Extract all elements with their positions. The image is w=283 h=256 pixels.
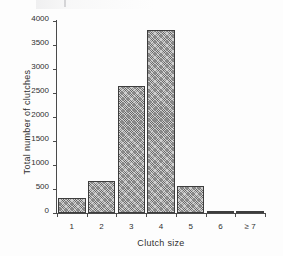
y-tick-label: 2000 [31, 111, 49, 119]
y-tick-mark [53, 189, 57, 190]
plot-area: 05001000150020002500300035004000 123456≥… [57, 21, 265, 213]
x-tick-label: 5 [188, 222, 192, 231]
y-tick-label: 3500 [31, 39, 49, 47]
y-tick-mark [53, 69, 57, 70]
y-axis-title: Total number of clutches [22, 47, 32, 197]
bar [207, 211, 235, 213]
y-tick-label: 1000 [31, 159, 49, 167]
y-tick-label: 500 [36, 183, 49, 191]
chart-figure: 05001000150020002500300035004000 123456≥… [0, 0, 283, 256]
x-tick-mark [235, 213, 236, 217]
bar [88, 181, 116, 213]
bar [58, 198, 86, 213]
x-tick-mark [57, 213, 58, 217]
y-tick-label: 2500 [31, 87, 49, 95]
x-tick-label: 2 [99, 222, 103, 231]
x-tick-label: 6 [218, 222, 222, 231]
bar [236, 211, 264, 213]
x-tick-mark [146, 213, 147, 217]
y-tick-mark [53, 21, 57, 22]
x-tick-mark [87, 213, 88, 217]
y-tick-mark [53, 93, 57, 94]
y-tick-mark [53, 141, 57, 142]
y-tick-mark [53, 165, 57, 166]
y-tick-mark [53, 117, 57, 118]
x-tick-label: 1 [70, 222, 74, 231]
x-tick-mark [116, 213, 117, 217]
x-tick-label: 4 [159, 222, 163, 231]
x-tick-mark [176, 213, 177, 217]
y-tick-mark [53, 45, 57, 46]
scan-artifact-mark [64, 0, 66, 7]
x-tick-label: 3 [129, 222, 133, 231]
x-axis-title: Clutch size [57, 238, 265, 248]
x-tick-label: ≥ 7 [245, 222, 256, 231]
scan-artifact [36, 0, 154, 9]
x-tick-mark [265, 213, 266, 217]
bar [147, 30, 175, 213]
y-tick-label: 3000 [31, 63, 49, 71]
bar [177, 186, 205, 213]
x-tick-mark [206, 213, 207, 217]
y-tick-label: 1500 [31, 135, 49, 143]
y-tick-label: 0 [45, 207, 49, 215]
y-tick-label: 4000 [31, 15, 49, 23]
bar [118, 86, 146, 213]
